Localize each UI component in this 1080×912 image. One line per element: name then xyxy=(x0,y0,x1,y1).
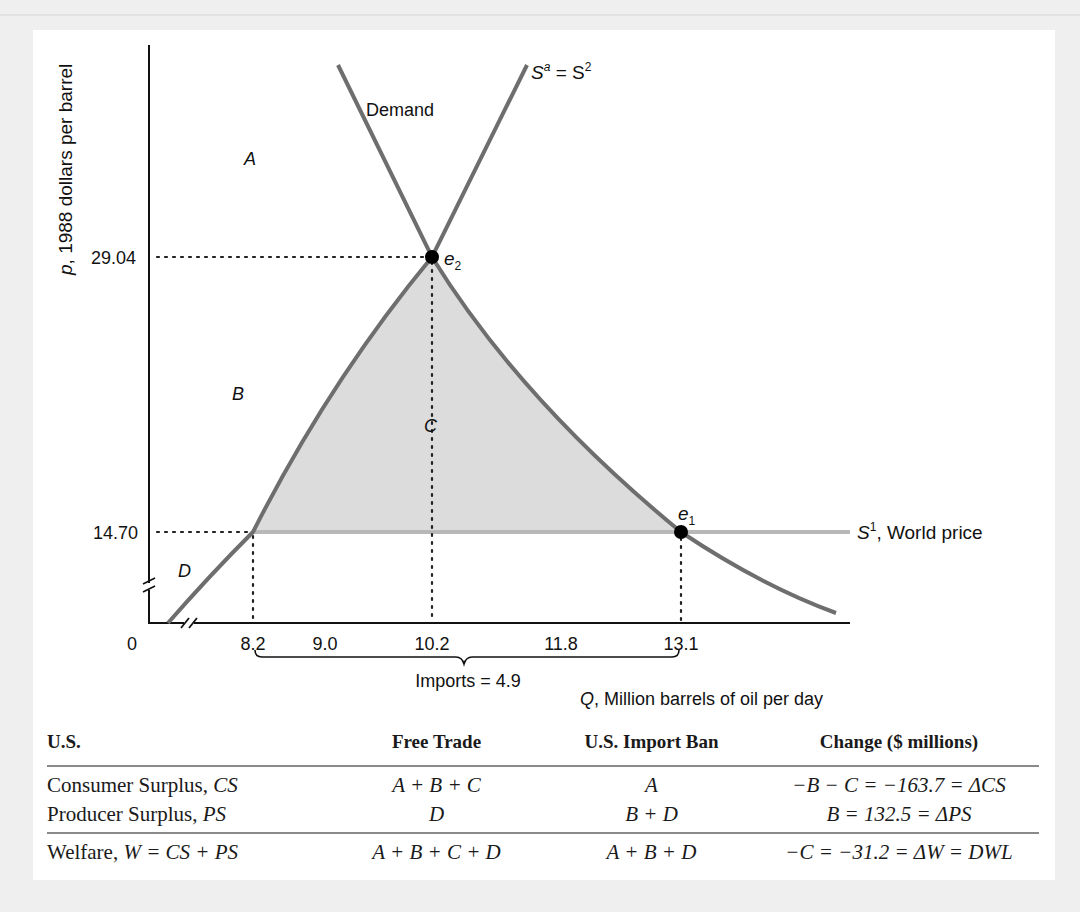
equilibrium-e1-marker xyxy=(674,525,688,539)
x-tick-11-8: 11.8 xyxy=(544,634,578,654)
region-d-label: D xyxy=(178,561,191,581)
table-rule xyxy=(47,832,1039,834)
region-c-label: C xyxy=(424,416,438,436)
table-header-row: U.S. Free Trade U.S. Import Ban Change (… xyxy=(47,722,1039,762)
surplus-table: U.S. Free Trade U.S. Import Ban Change (… xyxy=(47,722,1039,867)
table-rule xyxy=(47,765,1039,767)
x-tick-10-2: 10.2 xyxy=(414,634,449,654)
e2-label: e2 xyxy=(444,248,462,273)
imports-label: Imports = 4.9 xyxy=(415,671,521,691)
row-label-symbol: W = CS + PS xyxy=(123,840,238,864)
table-row-ps: Producer Surplus, PS D B + D B = 132.5 =… xyxy=(47,800,1039,829)
region-a-label: A xyxy=(243,149,256,169)
cell-free-trade: D xyxy=(329,802,544,827)
x-tick-9-0: 9.0 xyxy=(312,634,337,654)
row-label-symbol: CS xyxy=(213,773,238,797)
y-tick-14-70: 14.70 xyxy=(93,523,138,543)
row-label: Consumer Surplus, xyxy=(47,773,213,797)
row-label-symbol: PS xyxy=(203,802,226,826)
header-import-ban: U.S. Import Ban xyxy=(544,731,759,753)
cell-import-ban: A + B + D xyxy=(544,840,759,865)
demand-label: Demand xyxy=(366,100,434,120)
cell-free-trade: A + B + C xyxy=(329,773,544,798)
world-price-label: S1, World price xyxy=(857,520,983,543)
cell-import-ban: A xyxy=(544,773,759,798)
table-row-welfare: Welfare, W = CS + PS A + B + C + D A + B… xyxy=(47,838,1039,867)
row-label: Welfare, xyxy=(47,840,123,864)
cell-free-trade: A + B + C + D xyxy=(329,840,544,865)
region-c-shade xyxy=(253,257,681,532)
x-tick-0: 0 xyxy=(127,634,137,654)
header-change: Change ($ millions) xyxy=(759,731,1039,753)
equilibrium-e2-marker xyxy=(425,250,439,264)
cell-change: −B − C = −163.7 = ΔCS xyxy=(759,773,1039,798)
header-free-trade: Free Trade xyxy=(329,731,544,753)
cell-change: B = 132.5 = ΔPS xyxy=(759,802,1039,827)
x-tick-13-1: 13.1 xyxy=(663,634,698,654)
cell-import-ban: B + D xyxy=(544,802,759,827)
e1-label: e1 xyxy=(678,503,696,528)
y-tick-29-04: 29.04 xyxy=(91,248,136,268)
x-tick-8-2: 8.2 xyxy=(240,634,265,654)
supply-label: Sa = S2 xyxy=(531,60,592,83)
cell-change: −C = −31.2 = ΔW = DWL xyxy=(759,840,1039,865)
row-label: Producer Surplus, xyxy=(47,802,203,826)
header-us: U.S. xyxy=(47,731,329,753)
y-axis-label: p, 1988 dollars per barrel xyxy=(55,64,76,276)
region-b-label: B xyxy=(232,384,244,404)
table-row-cs: Consumer Surplus, CS A + B + C A −B − C … xyxy=(47,771,1039,800)
x-axis-label: Q, Million barrels of oil per day xyxy=(580,689,823,709)
